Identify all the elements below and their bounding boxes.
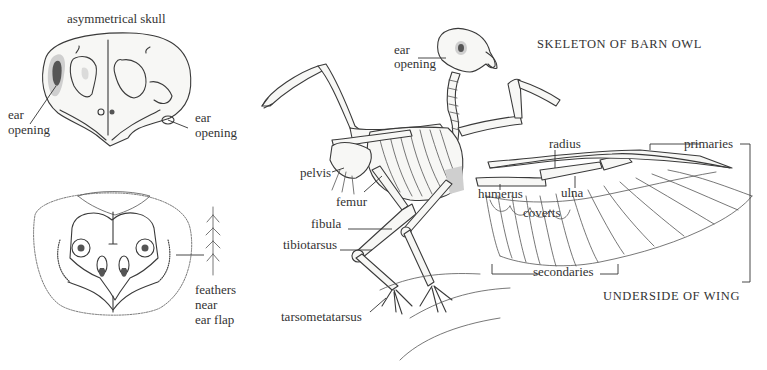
pelvis-label: pelvis bbox=[300, 166, 331, 180]
secondaries-label: secondaries bbox=[533, 265, 594, 279]
skull-left-ear-label-line1: ear bbox=[8, 108, 24, 122]
wing-underside-drawing bbox=[476, 144, 752, 282]
primaries-label: primaries bbox=[684, 137, 733, 151]
figure-title: SKELETON OF BARN OWL bbox=[537, 37, 702, 51]
wing-caption: UNDERSIDE OF WING bbox=[603, 289, 740, 303]
feathers-label-line3: ear flap bbox=[195, 313, 234, 327]
feathers-label-line2: near bbox=[195, 298, 217, 312]
tarsometatarsus-label: tarsometatarsus bbox=[281, 310, 362, 324]
tibiotarsus-label: tibiotarsus bbox=[283, 238, 337, 252]
skull-left-ear-label-line2: opening bbox=[8, 123, 50, 137]
ulna-label: ulna bbox=[561, 186, 583, 200]
skeleton-ear-label-line2: opening bbox=[394, 57, 436, 71]
asymmetrical-skull-drawing bbox=[30, 33, 191, 146]
feathers-label-line1: feathers bbox=[195, 283, 236, 297]
humerus-label: humerus bbox=[478, 187, 523, 201]
radius-label: radius bbox=[549, 137, 581, 151]
skull-title: asymmetrical skull bbox=[67, 12, 166, 26]
coverts-label: coverts bbox=[523, 206, 561, 220]
skull-right-ear-label-line2: opening bbox=[195, 126, 237, 140]
skeleton-ear-label-line1: ear bbox=[394, 43, 410, 57]
facial-disc-drawing bbox=[34, 192, 220, 316]
barn-owl-anatomy-figure: asymmetrical skull ear opening ear openi… bbox=[0, 0, 767, 370]
femur-label: femur bbox=[336, 195, 367, 209]
illustrations bbox=[0, 0, 767, 370]
skull-right-ear-label-line1: ear bbox=[195, 111, 211, 125]
fibula-label: fibula bbox=[311, 217, 341, 231]
